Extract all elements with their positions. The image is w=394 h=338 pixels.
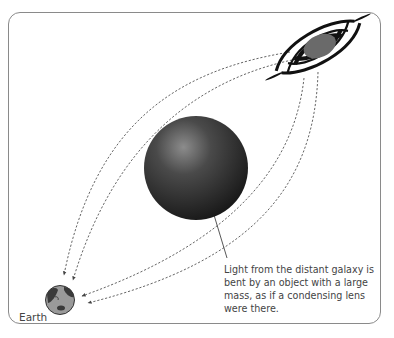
caption-text: Light from the distant galaxy is bent by… <box>224 263 384 315</box>
caption-leader-line <box>214 215 227 258</box>
earth-label: Earth <box>19 311 47 323</box>
massive-object-sphere <box>144 116 248 220</box>
earth-icon <box>46 286 75 315</box>
galaxy-icon <box>255 6 381 88</box>
